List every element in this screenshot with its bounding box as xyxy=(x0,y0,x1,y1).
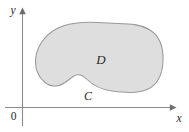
right-arrow-icon xyxy=(170,104,177,111)
y-axis-label: y xyxy=(9,4,16,17)
x-axis-label: x xyxy=(175,112,182,124)
origin-label: 0 xyxy=(11,110,17,122)
coordinate-plane-diagram: y x 0 D C xyxy=(0,0,189,132)
up-arrow-icon xyxy=(19,8,26,15)
region-label-d: D xyxy=(95,52,106,67)
figure-container: y x 0 D C xyxy=(0,0,189,132)
curve-label-c: C xyxy=(84,89,93,103)
